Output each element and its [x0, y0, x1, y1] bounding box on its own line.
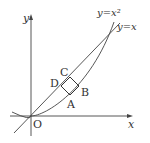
origin-label: O: [33, 118, 42, 131]
diagram-svg: y x O y=x² y=x C D B A: [0, 0, 150, 143]
square-abcd: [61, 77, 79, 95]
y-axis-arrow-icon: [29, 14, 33, 20]
point-c-label: C: [60, 66, 68, 79]
line-label: y=x: [116, 21, 137, 32]
point-a-label: A: [66, 98, 76, 111]
point-b-label: B: [81, 86, 89, 99]
x-axis-label: x: [128, 118, 135, 131]
parabola-label: y=x²: [96, 7, 121, 18]
diagram: y x O y=x² y=x C D B A: [0, 0, 150, 143]
point-d-label: D: [50, 77, 59, 90]
y-axis-label: y: [22, 12, 30, 25]
